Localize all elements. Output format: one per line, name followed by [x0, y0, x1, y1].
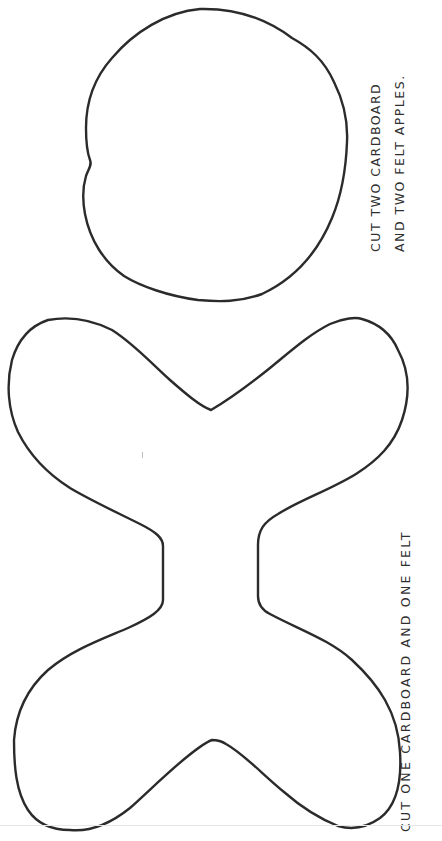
apple-outline-icon — [83, 9, 347, 301]
bowtie-instruction-line-1: CUT ONE CARDBOARD AND ONE FELT — [394, 531, 418, 832]
scan-speck — [142, 452, 143, 458]
apple-instructions: CUT TWO CARDBOARD AND TWO FELT APPLES. — [364, 74, 412, 252]
page-edge-line — [0, 825, 442, 826]
template-page: CUT TWO CARDBOARD AND TWO FELT APPLES. C… — [0, 0, 442, 841]
apple-instruction-line-1: CUT TWO CARDBOARD — [364, 74, 388, 252]
bowtie-instructions: CUT ONE CARDBOARD AND ONE FELT — [394, 531, 418, 832]
apple-instruction-line-2: AND TWO FELT APPLES. — [388, 74, 412, 252]
bowtie-outline-icon — [9, 318, 408, 830]
